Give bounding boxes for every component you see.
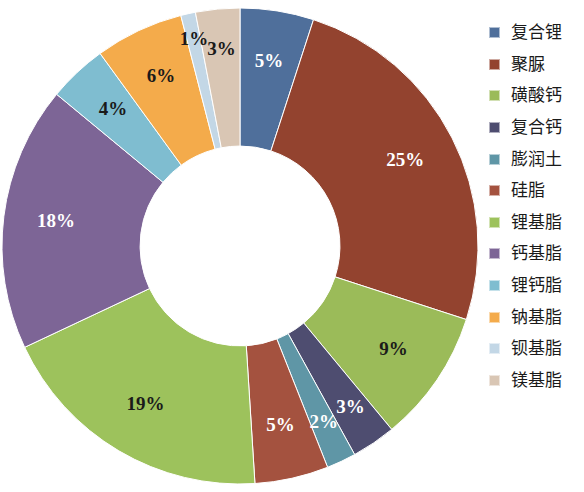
legend-item-label: 钡基脂 xyxy=(511,340,562,357)
legend-item[interactable]: 钠基脂 xyxy=(489,301,584,333)
legend-item[interactable]: 钡基脂 xyxy=(489,333,584,365)
pie-slice-label: 18% xyxy=(37,210,75,231)
legend-swatch-icon xyxy=(489,90,500,101)
pie-slice-label: 5% xyxy=(266,414,295,435)
legend-item[interactable]: 锂基脂 xyxy=(489,207,584,239)
legend-swatch-icon xyxy=(489,280,500,291)
legend-swatch-icon xyxy=(489,375,500,386)
legend-item-label: 镁基脂 xyxy=(511,372,562,389)
legend-item[interactable]: 磺酸钙 xyxy=(489,80,584,112)
legend-item[interactable]: 聚脲 xyxy=(489,49,584,81)
legend-swatch-icon xyxy=(489,154,500,165)
legend-item[interactable]: 复合锂 xyxy=(489,17,584,49)
legend-item[interactable]: 钙基脂 xyxy=(489,238,584,270)
legend-swatch-icon xyxy=(489,248,500,259)
legend-item-label: 锂基脂 xyxy=(511,214,562,231)
legend-item-label: 复合锂 xyxy=(511,24,562,41)
legend-swatch-icon xyxy=(489,59,500,70)
pie-slice[interactable] xyxy=(271,20,478,320)
pie-slice-label: 3% xyxy=(207,38,236,59)
pie-slice-label: 5% xyxy=(255,50,284,71)
legend-swatch-icon xyxy=(489,27,500,38)
legend-item[interactable]: 复合钙 xyxy=(489,112,584,144)
legend-item-label: 锂钙脂 xyxy=(511,277,562,294)
legend-item-label: 硅脂 xyxy=(511,182,545,199)
legend-item[interactable]: 锂钙脂 xyxy=(489,270,584,302)
pie-slice-label: 3% xyxy=(336,396,365,417)
pie-slice-label: 19% xyxy=(127,393,165,414)
legend-item[interactable]: 膨润土 xyxy=(489,143,584,175)
donut-slice-group xyxy=(2,8,478,484)
legend-item-label: 磺酸钙 xyxy=(511,87,562,104)
legend-item-label: 钠基脂 xyxy=(511,309,562,326)
legend-swatch-icon xyxy=(489,312,500,323)
donut-chart-svg: 5%25%9%3%2%5%19%18%4%6%1%3% xyxy=(0,0,480,492)
chart-page: 5%25%9%3%2%5%19%18%4%6%1%3% 复合锂聚脲磺酸钙复合钙膨… xyxy=(0,0,584,492)
legend-item-label: 复合钙 xyxy=(511,119,562,136)
pie-slice-label: 25% xyxy=(386,149,424,170)
pie-slice-label: 6% xyxy=(147,65,176,86)
pie-slice-label: 9% xyxy=(379,338,408,359)
legend-swatch-icon xyxy=(489,217,500,228)
pie-slice-label: 2% xyxy=(309,411,338,432)
legend-swatch-icon xyxy=(489,122,500,133)
pie-slice-label: 1% xyxy=(180,28,209,49)
legend-swatch-icon xyxy=(489,185,500,196)
pie-slice-label: 4% xyxy=(99,98,128,119)
legend-item[interactable]: 镁基脂 xyxy=(489,365,584,397)
chart-legend: 复合锂聚脲磺酸钙复合钙膨润土硅脂锂基脂钙基脂锂钙脂钠基脂钡基脂镁基脂 xyxy=(489,17,584,396)
legend-item-label: 聚脲 xyxy=(511,56,545,73)
donut-chart: 5%25%9%3%2%5%19%18%4%6%1%3% xyxy=(0,0,480,492)
legend-item-label: 钙基脂 xyxy=(511,245,562,262)
legend-item-label: 膨润土 xyxy=(511,151,562,168)
legend-item[interactable]: 硅脂 xyxy=(489,175,584,207)
legend-swatch-icon xyxy=(489,343,500,354)
